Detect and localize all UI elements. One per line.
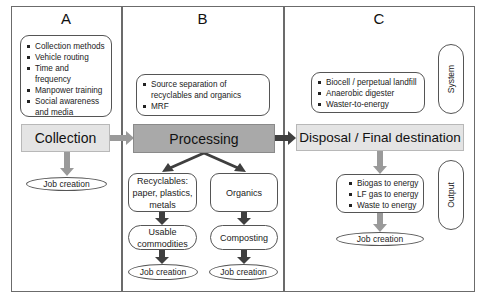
collection-factors-list: Collection methods Vehicle routing Time … (20, 35, 112, 117)
job-creation-label: Job creation (140, 267, 186, 277)
recyclables-box: Recyclables: paper, plastics, metals (128, 173, 197, 212)
composting-label: Composting (220, 232, 268, 244)
composting-box: Composting (210, 225, 278, 250)
list-item: LF gas to energy (347, 189, 419, 200)
list-item: Collection methods (25, 41, 107, 52)
arrow-disposal-to-output (373, 151, 387, 174)
recyclables-label: Recyclables: paper, plastics, metals (132, 175, 193, 211)
collection-stage: Collection (21, 124, 110, 152)
arrow-recyclables-to-commodities (155, 212, 169, 225)
list-item: Waster-to-energy (316, 99, 420, 110)
arrow-processing-to-recyclables (162, 153, 204, 172)
collection-stage-label: Collection (35, 130, 96, 146)
output-label: Output (446, 182, 456, 208)
processing-stage-label: Processing (169, 131, 238, 147)
list-item: Waste to energy (347, 200, 419, 211)
arrow-collection-to-processing (110, 131, 134, 145)
organics-label: Organics (226, 187, 262, 199)
list-item: Time and frequency (25, 63, 107, 85)
job-creation-disposal: Job creation (336, 232, 424, 246)
processing-factors-list: Source separation of recyclables and org… (136, 74, 270, 116)
output-energy-list: Biogas to energy LF gas to energy Waste … (336, 174, 424, 213)
job-creation-label: Job creation (220, 267, 266, 277)
list-item: Vehicle routing (25, 52, 107, 63)
output-label-capsule: Output (438, 160, 464, 230)
arrow-processing-to-organics (204, 153, 246, 172)
arrow-composting-to-job (237, 250, 251, 264)
disposal-system-list: Biocell / perpetual landfill Anaerobic d… (311, 72, 425, 113)
disposal-stage: Disposal / Final destination (296, 124, 464, 151)
system-label-capsule: System (438, 44, 464, 114)
list-item: Social awareness and media (25, 96, 107, 118)
list-item: Source separation of recyclables and org… (141, 79, 265, 101)
arrow-organics-to-composting (237, 212, 251, 225)
list-item: Manpower training (25, 85, 107, 96)
disposal-stage-label: Disposal / Final destination (299, 130, 460, 145)
arrow-collection-to-job (60, 152, 74, 176)
list-item: Biogas to energy (347, 178, 419, 189)
list-item: MRF (141, 101, 265, 112)
job-creation-organics: Job creation (209, 264, 278, 280)
job-creation-label: Job creation (357, 234, 403, 244)
usable-commodities-label: Usable commodities (137, 226, 188, 250)
arrow-processing-to-disposal (275, 131, 296, 145)
usable-commodities-box: Usable commodities (128, 225, 197, 250)
job-creation-collection: Job creation (26, 177, 107, 191)
processing-stage: Processing (133, 124, 275, 153)
system-label: System (446, 65, 456, 93)
arrow-commodities-to-job (155, 250, 169, 264)
job-creation-recyclables: Job creation (128, 264, 198, 280)
job-creation-label: Job creation (43, 179, 89, 189)
arrow-output-to-job (373, 213, 387, 232)
list-item: Biocell / perpetual landfill (316, 77, 420, 88)
list-item: Anaerobic digester (316, 88, 420, 99)
organics-box: Organics (210, 173, 278, 212)
